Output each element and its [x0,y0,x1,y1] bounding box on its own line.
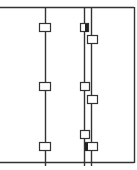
node-dark-band [85,143,88,151]
diagram-frame [0,7,135,163]
diagram-svg [0,0,137,170]
node-box [81,83,90,91]
node-dark-band [85,24,88,32]
diagram-canvas [0,0,137,170]
node-box [88,36,98,44]
nodes [40,24,98,152]
node-box [40,83,51,91]
node-box [81,131,90,139]
node-box [88,96,98,104]
node-box [40,143,51,151]
node-box [40,24,51,32]
